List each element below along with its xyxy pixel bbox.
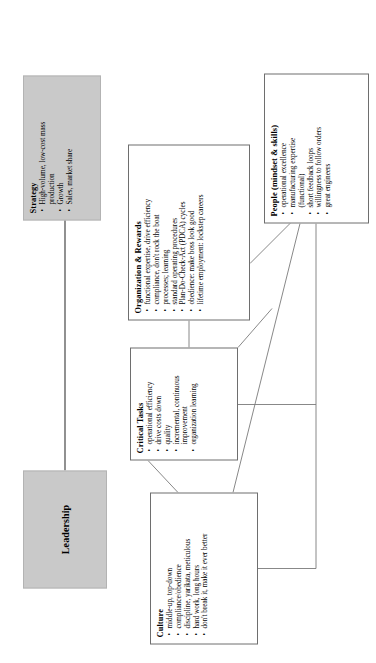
bullet-dot-icon: • — [144, 308, 153, 311]
bullet-text: Plan-Do-Check-Act (PDCA) cycles — [179, 201, 187, 304]
bullet-dot-icon: • — [193, 632, 202, 635]
bullet-text: discipline, yarikata, meticulous — [184, 538, 192, 628]
bullet-text: manufacturing expertise — [289, 137, 297, 207]
bullet-item: •don't break it, make it ever better — [201, 499, 210, 628]
bullet-item: •production — [48, 82, 57, 204]
bullet-item: •discipline, yarikata, meticulous — [184, 499, 193, 628]
box-organization-rewards-title: Organization & Rewards — [134, 151, 143, 313]
bullet-text: willingness to follow orders — [315, 127, 323, 207]
box-organization-rewards[interactable]: Organization & Rewards •functional exper… — [128, 144, 250, 320]
box-critical-tasks-bullets: •operational efficiency•drive costs down… — [146, 354, 198, 453]
bullet-dot-icon: • — [173, 448, 182, 451]
bullet-dot-icon: • — [164, 448, 173, 451]
bullet-text: operational excellence — [280, 143, 288, 207]
bullet-dot-icon: • — [289, 211, 298, 214]
box-leadership-title: Leadership — [60, 504, 71, 553]
bullet-dot-icon: • — [179, 308, 188, 311]
bullet-text: middle-up, top-down — [166, 567, 174, 628]
bullet-dot-icon: • — [155, 448, 164, 451]
bullet-item: •standard operating procedures — [171, 151, 180, 304]
bullet-item: •obedience: make boss look good — [188, 151, 197, 304]
bullet-item: •Growth — [57, 82, 66, 204]
bullet-item: •improvement — [181, 354, 190, 444]
bullet-text: operational efficiency — [146, 381, 154, 444]
bullet-dot-icon: • — [175, 632, 184, 635]
bullet-dot-icon: • — [166, 632, 175, 635]
bullet-item: •operational efficiency — [146, 354, 155, 444]
bullet-text: great engineers — [324, 163, 332, 207]
connector-culture-criticaltasks — [148, 460, 178, 492]
box-critical-tasks-title: Critical Tasks — [136, 354, 145, 453]
bullet-item: •compliance, don't rock the boat — [153, 151, 162, 304]
bullet-text: don't break it, make it ever better — [201, 533, 209, 628]
diagram-stage: Leadership Strategy •High-volume, low-co… — [0, 0, 376, 663]
bullet-item: •incremental, continuous — [173, 354, 182, 444]
bullet-item: •compliance/obedience — [175, 499, 184, 628]
bullet-dot-icon: • — [201, 632, 210, 635]
bullet-text: processes; learning — [162, 249, 170, 304]
bullet-item: •processes; learning — [162, 151, 171, 304]
box-people[interactable]: People (mindset & skills) •operational e… — [264, 73, 369, 223]
bullet-text: compliance/obedience — [175, 564, 183, 628]
bullet-item: •middle-up, top-down — [166, 499, 175, 628]
bullet-text: obedience: make boss look good — [188, 210, 196, 304]
bullet-dot-icon: • — [184, 632, 193, 635]
bullet-item: •Sales, market share — [66, 82, 75, 204]
bullet-dot-icon: • — [162, 308, 171, 311]
bullet-text: production — [48, 173, 56, 204]
box-culture-bullets: •middle-up, top-down•compliance/obedienc… — [166, 499, 210, 637]
bullet-item: •quality — [164, 354, 173, 444]
bullet-item: •willingness to follow orders — [315, 80, 324, 207]
bullet-item: •hard work, long hours — [193, 499, 202, 628]
box-strategy-bullets: •High-volume, low-cost mass•production•G… — [39, 82, 74, 213]
box-culture-title: Culture — [156, 499, 165, 637]
bullet-text: short feedback loops — [307, 148, 315, 207]
bullet-text: drive costs down — [155, 395, 163, 444]
bullet-dot-icon: • — [171, 308, 180, 311]
bullet-dot-icon: • — [307, 211, 316, 214]
bullet-item: •manufacturing expertise — [289, 80, 298, 207]
bullet-text: High-volume, low-cost mass — [39, 121, 47, 204]
box-organization-rewards-bullets: •functional expertise, drive efficiency•… — [144, 151, 205, 313]
bullet-item: •short feedback loops — [307, 80, 316, 207]
bullet-text: Sales, market share — [66, 148, 74, 204]
bullet-dot-icon: • — [57, 208, 66, 211]
bullet-dot-icon: • — [66, 208, 75, 211]
bullet-text: incremental, continuous — [173, 375, 181, 444]
bullet-item: •Plan-Do-Check-Act (PDCA) cycles — [179, 151, 188, 304]
box-strategy-title: Strategy — [29, 82, 38, 213]
bullet-dot-icon: • — [39, 208, 48, 211]
bullet-text: lifetime employment: lockstep careers — [197, 194, 205, 304]
diagram-canvas: Leadership Strategy •High-volume, low-co… — [0, 0, 376, 663]
bullet-text: quality — [164, 424, 172, 444]
bullet-text: (functional) — [298, 173, 306, 207]
bullet-item: •functional expertise, drive efficiency — [144, 151, 153, 304]
bullet-text: Growth — [57, 182, 65, 204]
box-strategy[interactable]: Strategy •High-volume, low-cost mass•pro… — [23, 75, 101, 220]
bullet-dot-icon: • — [153, 308, 162, 311]
bullet-text: functional expertise, drive efficiency — [144, 198, 152, 304]
bullet-item: •operational excellence — [280, 80, 289, 207]
box-people-title: People (mindset & skills) — [270, 80, 279, 216]
box-people-bullets: •operational excellence•manufacturing ex… — [280, 80, 332, 216]
box-critical-tasks[interactable]: Critical Tasks •operational efficiency•d… — [130, 347, 238, 460]
bullet-text: improvement — [181, 406, 189, 444]
bullet-dot-icon: • — [280, 211, 289, 214]
bullet-dot-icon: • — [315, 211, 324, 214]
bullet-item: •great engineers — [324, 80, 333, 207]
bullet-item: •organization learning — [190, 354, 199, 444]
bullet-item: •High-volume, low-cost mass — [39, 82, 48, 204]
bullet-dot-icon: • — [197, 308, 206, 311]
bullet-dot-icon: • — [188, 308, 197, 311]
bullet-text: hard work, long hours — [193, 565, 201, 628]
box-culture[interactable]: Culture •middle-up, top-down•compliance/… — [150, 492, 258, 644]
box-leadership[interactable]: Leadership — [23, 470, 107, 588]
bullet-dot-icon: • — [324, 211, 333, 214]
bullet-text: organization learning — [190, 383, 198, 444]
bullet-dot-icon: • — [190, 448, 199, 451]
bullet-text: compliance, don't rock the boat — [153, 214, 161, 304]
bullet-item: •drive costs down — [155, 354, 164, 444]
bullet-dot-icon: • — [146, 448, 155, 451]
bullet-text: standard operating procedures — [171, 217, 179, 304]
bullet-item: •lifetime employment: lockstep careers — [197, 151, 206, 304]
